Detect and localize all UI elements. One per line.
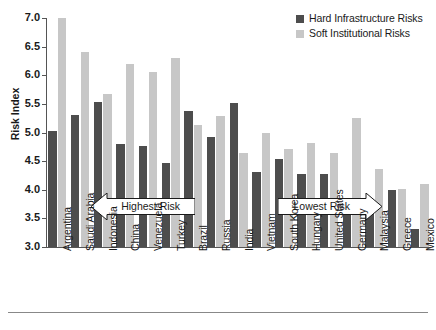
bar-group bbox=[411, 18, 429, 247]
y-tick-label: 4.5 bbox=[10, 154, 40, 166]
y-tick-mark bbox=[42, 104, 46, 105]
y-tick-label: 6.5 bbox=[10, 40, 40, 52]
y-tick-mark bbox=[42, 133, 46, 134]
plot-area: 3.03.54.04.55.05.56.06.57.0 Highest Risk… bbox=[46, 18, 431, 247]
x-tick-label: Russia bbox=[220, 220, 232, 252]
bottom-divider bbox=[8, 312, 428, 313]
y-tick-label: 3.5 bbox=[10, 211, 40, 223]
x-tick-label: Mexico bbox=[424, 218, 436, 251]
risk-index-bar-chart: Hard Infrastructure Risks Soft Instituti… bbox=[0, 0, 436, 330]
x-tick-label: Saudi Arabia bbox=[84, 193, 96, 251]
annotation-label: Highest Risk bbox=[107, 193, 195, 220]
y-tick-label: 4.0 bbox=[10, 183, 40, 195]
y-tick-mark bbox=[42, 247, 46, 248]
x-tick-label: Malaysia bbox=[378, 210, 390, 251]
x-tick-label: Hungary bbox=[310, 212, 322, 251]
y-tick-mark bbox=[42, 75, 46, 76]
x-tick-label: Argentina bbox=[61, 207, 73, 251]
x-tick-label: United States bbox=[333, 189, 345, 251]
y-tick-mark bbox=[42, 161, 46, 162]
y-axis-line bbox=[46, 18, 47, 247]
bar-group bbox=[388, 18, 406, 247]
y-tick-mark bbox=[42, 190, 46, 191]
bar-hard-infrastructure bbox=[48, 131, 56, 247]
x-tick-label: Turkey bbox=[175, 220, 187, 251]
y-tick-label: 3.0 bbox=[10, 240, 40, 252]
y-tick-mark bbox=[42, 47, 46, 48]
y-tick-label: 6.0 bbox=[10, 68, 40, 80]
x-tick-label: India bbox=[243, 229, 255, 251]
x-tick-label: Germany bbox=[356, 209, 368, 251]
x-axis-line bbox=[46, 247, 431, 248]
x-tick-label: Venezuela bbox=[152, 203, 164, 251]
y-tick-label: 5.0 bbox=[10, 126, 40, 138]
x-tick-label: Vietnam bbox=[265, 213, 277, 251]
y-tick-label: 7.0 bbox=[10, 11, 40, 23]
bar-group bbox=[230, 18, 248, 247]
x-tick-label: South Korea bbox=[288, 194, 300, 251]
x-tick-label: Indonesia bbox=[107, 206, 119, 251]
y-axis-title: Risk Index bbox=[9, 74, 21, 154]
bar-group bbox=[207, 18, 225, 247]
y-tick-label: 5.5 bbox=[10, 97, 40, 109]
y-tick-mark bbox=[42, 218, 46, 219]
y-tick-mark bbox=[42, 18, 46, 19]
x-tick-label: Brazil bbox=[197, 225, 209, 251]
x-tick-label: Greece bbox=[401, 217, 413, 251]
x-tick-label: China bbox=[129, 224, 141, 251]
